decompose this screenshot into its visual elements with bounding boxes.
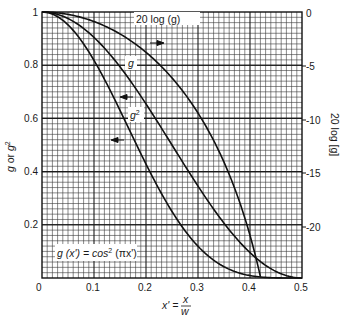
y-tick-left: 0.6 — [24, 113, 38, 124]
y-tick-right: 0 — [306, 8, 312, 19]
right-axis-ticks: 0 -5 -10 -15 -20 — [302, 8, 321, 233]
x-tick: 0 — [36, 282, 42, 293]
xlabel-lhs: x' = — [161, 299, 178, 311]
arrow-left-icon — [111, 138, 124, 143]
y-tick-left: 1 — [32, 7, 38, 18]
x-tick: 0.4 — [242, 282, 256, 293]
x-axis-ticks: 0 0.1 0.2 0.3 0.4 0.5 — [36, 282, 308, 293]
x-tick: 0.5 — [294, 282, 308, 293]
ylabel-or: or — [4, 151, 16, 166]
left-axis-ticks: 1 0.8 0.6 0.4 0.2 — [24, 7, 38, 230]
xlabel-den: w — [181, 305, 190, 317]
curve-label-20log-g: 20 log (g) — [136, 13, 180, 25]
formula-label: g (x') = cos2 (πx') — [57, 247, 137, 259]
x-tick: 0.1 — [86, 282, 100, 293]
formula-right: (πx') — [112, 247, 136, 259]
x-axis-label: x' = x w — [161, 293, 191, 317]
y-tick-right: -15 — [306, 168, 321, 179]
ylabel-sup: 2 — [4, 141, 11, 145]
chart-svg: 20 log (g) g g2 g (x') = cos2 (πx') 0 0.… — [0, 0, 343, 322]
g2-sup: 2 — [136, 109, 140, 116]
y-axis-label-left: g or g2 — [4, 141, 16, 172]
y-tick-left: 0.8 — [24, 59, 38, 70]
arrow-left-icon — [120, 95, 133, 100]
x-tick: 0.3 — [190, 282, 204, 293]
xlabel-num: x — [182, 293, 189, 305]
y-tick-right: -20 — [306, 222, 321, 233]
y-axis-label-right: 20 log [g] — [329, 113, 341, 156]
curve-label-g: g — [128, 57, 134, 69]
y-tick-left: 0.2 — [24, 219, 38, 230]
y-tick-right: -5 — [306, 61, 315, 72]
y-tick-left: 0.4 — [24, 166, 38, 177]
formula-left: g (x') = cos — [57, 247, 109, 259]
y-tick-right: -10 — [306, 115, 321, 126]
x-tick: 0.2 — [138, 282, 152, 293]
